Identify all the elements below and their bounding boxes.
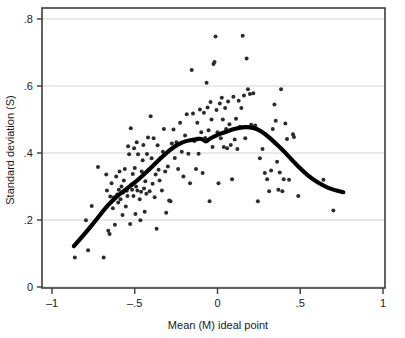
scatter-point [271, 127, 275, 131]
y-tick-label: .6 [24, 80, 33, 92]
scatter-point [245, 57, 249, 61]
scatter-point [216, 181, 220, 185]
scatter-point [261, 147, 265, 151]
scatter-point [135, 189, 139, 193]
scatter-point [178, 121, 182, 125]
scatter-point [230, 177, 234, 181]
scatter-point [191, 111, 195, 115]
scatter-point [73, 256, 77, 260]
scatter-point [130, 188, 134, 192]
scatter-point [211, 145, 215, 149]
scatter-point [207, 128, 211, 132]
scatter-point [239, 106, 243, 110]
scatter-point [205, 81, 209, 85]
scatter-point [151, 182, 155, 186]
scatter-point [274, 119, 278, 123]
scatter-point [108, 232, 112, 236]
scatter-point [149, 114, 153, 118]
scatter-point [157, 168, 161, 172]
scatter-point [195, 121, 199, 125]
scatter-point [104, 172, 108, 176]
x-tick-label: –.5 [127, 297, 142, 309]
scatter-point [136, 152, 140, 156]
y-axis-title: Standard deviation (S) [4, 95, 16, 204]
scatter-point [84, 218, 88, 222]
y-tick-label: .4 [24, 147, 33, 159]
scatter-point [185, 112, 189, 116]
scatter-point [231, 95, 235, 99]
scatter-point [237, 99, 241, 103]
scatter-point [113, 223, 117, 227]
scatter-point [176, 167, 180, 171]
scatter-point [160, 189, 164, 193]
scatter-point [155, 227, 159, 231]
scatter-point [124, 205, 128, 209]
scatter-point [243, 136, 247, 140]
scatter-point [331, 209, 335, 213]
scatter-point [278, 170, 282, 174]
scatter-point [119, 197, 123, 201]
scatter-point [198, 107, 202, 111]
scatter-point [108, 195, 112, 199]
scatter-point [169, 199, 173, 203]
scatter-point [121, 213, 125, 217]
scatter-point [171, 128, 175, 132]
scatter-point [158, 178, 162, 182]
scatter-point [127, 152, 131, 156]
scatter-point [223, 106, 227, 110]
x-tick-label: 1 [380, 297, 386, 309]
scatter-point [139, 190, 143, 194]
scatter-point [241, 34, 245, 38]
scatter-point [125, 194, 129, 198]
x-tick-label: 0 [214, 297, 220, 309]
scatter-point [131, 194, 135, 198]
scatter-point [199, 130, 203, 134]
scatter-point [321, 178, 325, 182]
scatter-point [188, 181, 192, 185]
scatter-point [210, 118, 214, 122]
scatter-point [186, 152, 190, 156]
scatter-point [118, 169, 122, 173]
scatter-point [208, 199, 212, 203]
scatter-point [221, 118, 225, 122]
scatter-point [276, 188, 280, 192]
scatter-point [279, 87, 283, 91]
scatter-point [135, 140, 139, 144]
scatter-point [269, 168, 273, 172]
x-tick-label: .5 [296, 297, 305, 309]
scatter-point [227, 122, 231, 126]
scatter-point [96, 165, 100, 169]
scatter-point [234, 117, 238, 121]
scatter-point [242, 93, 246, 97]
scatter-point [220, 96, 224, 100]
scatter-point [283, 122, 287, 126]
scatter-point [267, 189, 271, 193]
chart-canvas: 0.2.4.6.8 –1–.50.51 Mean (M) ideal point… [0, 0, 405, 338]
scatter-point [143, 210, 147, 214]
scatter-point [111, 206, 115, 210]
scatter-point [138, 218, 142, 222]
scatter-point [116, 201, 120, 205]
scatter-point [258, 156, 262, 160]
x-axis-title: Mean (M) ideal point [168, 319, 268, 331]
scatter-point [128, 222, 132, 226]
scatter-point [215, 108, 219, 112]
scatter-point [129, 126, 133, 130]
scatter-point [122, 178, 126, 182]
scatter-point [162, 127, 166, 131]
scatter-point [201, 171, 205, 175]
scatter-point [194, 167, 198, 171]
scatter-point [154, 172, 158, 176]
scatter-point [86, 248, 90, 252]
y-tick-label: 0 [27, 281, 33, 293]
scatter-point [214, 34, 218, 38]
scatter-point [142, 187, 146, 191]
scatter-point [246, 87, 250, 91]
scatter-point [114, 174, 118, 178]
scatter-point [170, 142, 174, 146]
scatter-point [132, 146, 136, 150]
scatter-point [213, 60, 217, 64]
scatter-point [280, 189, 284, 193]
scatter-point [183, 134, 187, 138]
scatter-point [145, 152, 149, 156]
